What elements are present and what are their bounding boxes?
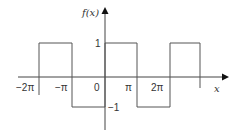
y-tick-neg-1: −1	[108, 102, 120, 113]
y-axis-label: f(x)	[81, 7, 99, 18]
x-tick-neg-2pi: −2π	[16, 82, 34, 93]
x-tick-zero: 0	[94, 82, 100, 93]
x-axis-arrow-icon	[222, 74, 229, 81]
x-tick-neg-pi: −π	[55, 82, 68, 93]
x-tick-2pi: 2π	[151, 82, 164, 93]
x-tick-pi: π	[125, 82, 132, 93]
y-tick-1: 1	[95, 38, 101, 49]
square-wave-line	[39, 43, 200, 107]
x-axis-label: x	[214, 83, 220, 94]
y-axis-arrow-icon	[102, 7, 109, 14]
square-wave-chart: f(x) x −2π −π 0 π 2π 1 −1	[0, 0, 234, 139]
